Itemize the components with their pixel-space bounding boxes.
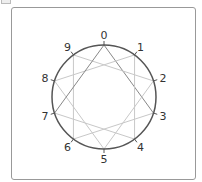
point-label-3: 3 xyxy=(159,110,166,123)
point-label-2: 2 xyxy=(159,72,166,85)
point-label-4: 4 xyxy=(137,141,144,154)
circle xyxy=(52,45,156,149)
point-label-9: 9 xyxy=(64,41,71,54)
point-label-5: 5 xyxy=(101,153,108,166)
point-label-6: 6 xyxy=(64,141,71,154)
point-label-1: 1 xyxy=(137,41,144,54)
point-label-8: 8 xyxy=(42,72,49,85)
point-label-0: 0 xyxy=(101,29,108,42)
modular-circle-diagram: 0123456789 xyxy=(0,0,202,182)
point-label-7: 7 xyxy=(42,110,49,123)
